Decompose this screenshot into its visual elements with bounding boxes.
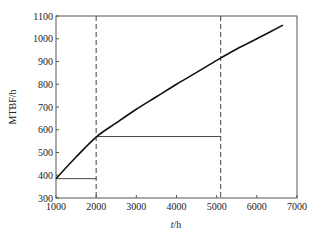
x-tick-label: 2000 [86,201,106,212]
y-tick-label: 500 [38,147,53,158]
data-series [56,25,283,179]
reference-lines [56,16,221,198]
y-axis-label: MTBF/h [7,89,18,124]
x-tick-label: 5000 [207,201,227,212]
y-tick-label: 1000 [33,33,53,44]
x-tick-label: 6000 [247,201,267,212]
y-tick-label: 900 [38,56,53,67]
x-axis-label: t/h [171,219,182,230]
x-tick-label: 7000 [287,201,307,212]
y-tick-label: 700 [38,102,53,113]
x-tick-label: 4000 [167,201,187,212]
y-tick-label: 800 [38,79,53,90]
mtbf-curve [56,25,283,179]
mtbf-chart: 1000200030004000500060007000 30040050060… [0,0,318,236]
y-tick-label: 400 [38,170,53,181]
plot-frame [56,16,297,198]
y-tick-label: 1100 [33,11,53,22]
x-tick-label: 3000 [126,201,146,212]
plot-border [56,16,297,198]
y-tick-label: 300 [38,193,53,204]
y-tick-label: 600 [38,124,53,135]
y-axis-ticks: 30040050060070080090010001100 [33,11,59,204]
